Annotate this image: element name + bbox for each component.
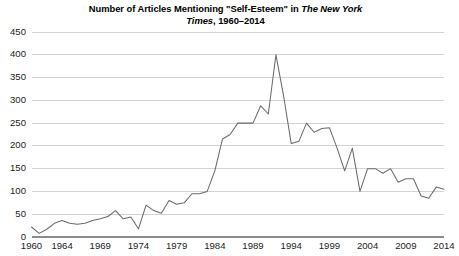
y-tick-50: 50 <box>0 209 26 219</box>
y-tick-300: 300 <box>0 95 26 105</box>
y-tick-400: 400 <box>0 49 26 59</box>
x-tick-1989: 1989 <box>236 241 270 251</box>
x-tick-1969: 1969 <box>83 241 117 251</box>
x-tick-2014: 2014 <box>427 241 459 251</box>
data-line-series <box>32 55 445 234</box>
y-tick-250: 250 <box>0 118 26 128</box>
y-tick-350: 350 <box>0 72 26 82</box>
y-tick-450: 450 <box>0 27 26 37</box>
x-tick-1974: 1974 <box>121 241 155 251</box>
y-tick-200: 200 <box>0 140 26 150</box>
x-tick-2009: 2009 <box>389 241 423 251</box>
x-tick-1960: 1960 <box>15 241 49 251</box>
x-tick-1984: 1984 <box>198 241 232 251</box>
x-tick-1964: 1964 <box>45 241 79 251</box>
gridlines-group <box>32 32 445 237</box>
x-tick-2004: 2004 <box>351 241 385 251</box>
x-tick-1994: 1994 <box>274 241 308 251</box>
x-tick-1999: 1999 <box>312 241 346 251</box>
y-tick-100: 100 <box>0 186 26 196</box>
y-tick-150: 150 <box>0 163 26 173</box>
x-tick-1979: 1979 <box>160 241 194 251</box>
